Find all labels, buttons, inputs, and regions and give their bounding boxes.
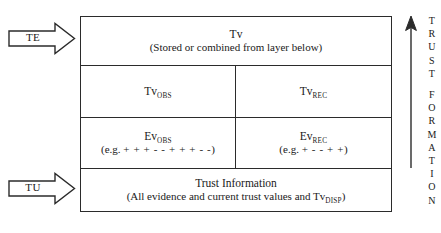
cell-ev-rec: EvREC (e.g. + - - + +)	[236, 118, 391, 168]
layer-row-trust-values: TvOBS TvREC	[81, 66, 391, 118]
cell-ev-obs-label: EvOBS	[144, 129, 171, 143]
cell-trust-information: Trust Information (All evidence and curr…	[81, 169, 391, 211]
cell-ev-rec-example-sequence: + - - + +	[302, 143, 344, 155]
caption-letter: S	[429, 54, 435, 67]
cell-tv-obs: TvOBS	[81, 66, 236, 117]
cell-tv-detail: (Stored or combined from layer below)	[150, 41, 323, 54]
trust-formation-arrow	[404, 16, 418, 168]
cell-tv-obs-base: Tv	[144, 85, 157, 97]
layer-row-trust-information: Trust Information (All evidence and curr…	[81, 169, 391, 211]
cell-ev-rec-example: (e.g. + - - + +)	[279, 143, 347, 156]
cell-trust-information-title: Trust Information	[195, 176, 277, 190]
trust-formation-caption: TRUST FORMATION	[424, 14, 440, 207]
cell-ev-obs-base: Ev	[144, 130, 157, 142]
cell-ev-obs-subscript: OBS	[157, 137, 172, 145]
cell-tv: Tv (Stored or combined from layer below)	[81, 17, 391, 65]
cell-tv-rec-label: TvREC	[300, 84, 327, 98]
caption-letter: A	[428, 141, 436, 154]
layer-row-evidence: EvOBS (e.g. + + + - - + + + - -) EvREC (…	[81, 118, 391, 169]
cell-trust-information-detail-suffix: )	[342, 190, 346, 202]
caption-letter: T	[429, 154, 435, 167]
cell-ev-rec-base: Ev	[300, 130, 313, 142]
caption-letter: F	[429, 88, 435, 101]
cell-ev-obs: EvOBS (e.g. + + + - - + + + - -)	[81, 118, 236, 168]
cell-ev-rec-example-prefix: (e.g.	[279, 143, 301, 155]
cell-ev-rec-subscript: REC	[313, 137, 328, 145]
cell-tv-rec: TvREC	[236, 66, 391, 117]
caption-letter: O	[428, 180, 436, 193]
cell-tv-obs-subscript: OBS	[157, 92, 172, 100]
caption-letter: R	[429, 114, 436, 127]
layer-stack: Tv (Stored or combined from layer below)…	[80, 16, 392, 212]
cell-trust-information-detail: (All evidence and current trust values a…	[127, 190, 346, 203]
cell-ev-obs-example-sequence: + + + - - + + + - -	[123, 143, 211, 155]
up-arrow-icon	[404, 16, 418, 168]
cell-trust-information-detail-prefix: (All evidence and current trust values a…	[127, 190, 326, 202]
caption-letter: M	[427, 128, 436, 141]
caption-letter: O	[428, 101, 436, 114]
input-arrow-tu-label: TU	[8, 181, 58, 193]
cell-ev-obs-example: (e.g. + + + - - + + + - -)	[101, 143, 215, 156]
cell-tv-rec-base: Tv	[300, 85, 313, 97]
input-arrow-te: TE	[8, 22, 76, 55]
input-arrow-te-label: TE	[8, 31, 58, 43]
layer-row-tv: Tv (Stored or combined from layer below)	[81, 17, 391, 66]
cell-trust-information-detail-subscript: DISP	[325, 197, 341, 205]
caption-letter: R	[429, 27, 436, 40]
cell-tv-rec-subscript: REC	[313, 92, 328, 100]
cell-ev-obs-example-prefix: (e.g.	[101, 143, 123, 155]
caption-letter: T	[429, 14, 435, 27]
cell-ev-obs-example-suffix: )	[211, 143, 215, 155]
caption-letter: I	[430, 167, 434, 180]
trust-formation-diagram: TE TU Tv (Stored or combined from layer …	[0, 0, 441, 233]
cell-ev-rec-example-suffix: )	[344, 143, 348, 155]
cell-tv-obs-label: TvOBS	[144, 84, 171, 98]
caption-letter: T	[429, 67, 435, 80]
input-arrow-tu: TU	[8, 172, 76, 205]
cell-tv-title: Tv	[230, 27, 243, 41]
caption-letter: N	[428, 194, 436, 207]
cell-ev-rec-label: EvREC	[300, 129, 327, 143]
caption-letter: U	[428, 40, 436, 53]
